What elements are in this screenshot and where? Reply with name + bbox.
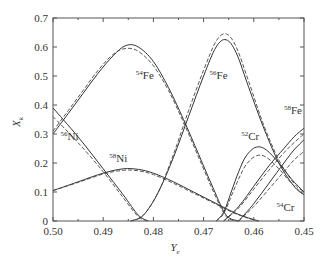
y-tick-label: 0 <box>43 215 49 227</box>
series-labels: 56Ni54Fe58Ni56Fe52Cr58Fe54Cr <box>61 69 303 213</box>
y-tick-label: 0.6 <box>34 41 48 53</box>
label-54cr: 54Cr <box>276 201 294 213</box>
curves-layer <box>53 34 304 221</box>
x-axis-label: Ye <box>170 241 179 256</box>
x-tick-label: 0.47 <box>194 225 214 237</box>
chart: 0.500.490.480.470.460.45 00.10.20.30.40.… <box>0 0 324 267</box>
y-tick-label: 0.7 <box>34 12 48 24</box>
x-tick-label: 0.48 <box>144 225 164 237</box>
y-tick-label: 0.3 <box>34 128 48 140</box>
label-56fe: 56Fe <box>210 69 228 81</box>
x-tick-label: 0.45 <box>294 225 314 237</box>
y-tick-label: 0.5 <box>34 70 48 82</box>
label-58ni: 58Ni <box>109 152 127 164</box>
x-axis: 0.500.490.480.470.460.45 <box>43 18 314 237</box>
x-tick-label: 0.46 <box>244 225 264 237</box>
y-tick-label: 0.2 <box>34 157 48 169</box>
label-56ni: 56Ni <box>61 130 79 142</box>
series-56fe-dashed <box>131 34 304 221</box>
y-tick-label: 0.1 <box>34 186 48 198</box>
label-58fe: 58Fe <box>284 104 302 116</box>
series-58ni-dashed <box>53 170 259 221</box>
y-tick-label: 0.4 <box>34 99 48 111</box>
plot-frame <box>53 18 304 221</box>
series-56ni-solid <box>53 108 148 221</box>
label-52cr: 52Cr <box>241 130 259 142</box>
y-axis-label: Xk <box>10 116 25 128</box>
series-58ni-solid <box>53 169 259 221</box>
label-54fe: 54Fe <box>136 69 154 81</box>
x-tick-label: 0.49 <box>94 225 114 237</box>
